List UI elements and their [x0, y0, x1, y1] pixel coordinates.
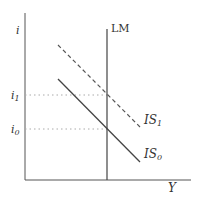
is0-label: IS0	[143, 147, 162, 162]
lm-label: LM	[111, 22, 130, 35]
i0-label: i0	[11, 123, 20, 137]
i1-label: i1	[11, 89, 20, 103]
is1-curve	[58, 45, 140, 127]
is1-label: IS1	[143, 113, 162, 128]
x-axis-label: Y	[168, 181, 177, 195]
is0-curve	[58, 79, 140, 162]
y-axis-label: i	[16, 24, 20, 37]
is-lm-diagram: i Y LM i1 i0 IS1 IS0	[0, 0, 199, 198]
